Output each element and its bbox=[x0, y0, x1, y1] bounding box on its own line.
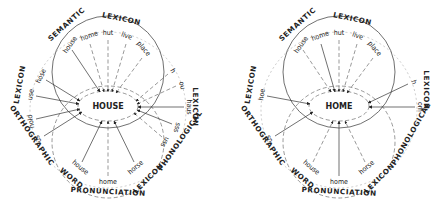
word-label: h bbox=[409, 79, 418, 85]
arrow-orthographic bbox=[36, 96, 79, 104]
word-label: house bbox=[293, 35, 311, 55]
orthographic-lexicon-title: ORTHOGRAPHIC bbox=[239, 104, 288, 168]
arrow-semantic bbox=[90, 44, 104, 92]
center-word: HOUSE bbox=[92, 102, 123, 111]
word-label: use bbox=[26, 88, 36, 100]
arrow-phonological bbox=[134, 113, 162, 137]
orthographic-lexicon-title: ORTHOGRAPHIC bbox=[8, 104, 57, 168]
word-label: home bbox=[330, 178, 348, 186]
semantic-lexicon-title: LEXICON bbox=[101, 10, 141, 27]
phonological-lexicon-title: PHONOLOGICAL bbox=[389, 101, 432, 167]
arrow-semantic bbox=[116, 58, 142, 93]
word-label: home bbox=[99, 178, 117, 186]
word-label: horse bbox=[126, 159, 145, 177]
arrow-orthographic bbox=[275, 112, 313, 136]
word-label: hose bbox=[34, 68, 48, 85]
arrow-orthographic bbox=[46, 80, 80, 101]
center-word: HOME bbox=[326, 102, 353, 111]
arrow-semantic bbox=[321, 44, 335, 92]
arrow-semantic bbox=[347, 58, 373, 93]
arrow-semantic bbox=[343, 44, 357, 92]
word-label: horse bbox=[357, 159, 376, 177]
diagram-house: HOUSE house home hut live place hose use… bbox=[8, 5, 204, 198]
word-label: hut bbox=[103, 29, 114, 37]
word-label: h bbox=[168, 67, 177, 74]
arrow-phonological bbox=[368, 84, 408, 103]
arrow-semantic bbox=[303, 50, 331, 92]
orthographic-lexicon-title: LEXICON bbox=[243, 64, 259, 104]
arrow-phonological bbox=[137, 110, 172, 124]
orthographic-lexicon-title: LEXICON bbox=[12, 64, 28, 104]
word-label: hut bbox=[334, 29, 345, 37]
lexicon-diagrams: HOUSE house home hut live place hose use… bbox=[0, 0, 443, 214]
semantic-lexicon-title: LEXICON bbox=[332, 10, 372, 27]
arrow-pronunciation bbox=[82, 121, 102, 162]
word-label: place bbox=[366, 40, 383, 58]
word-label: ou bbox=[177, 81, 187, 91]
word-label: hoe bbox=[257, 88, 267, 101]
word-label: uss bbox=[159, 135, 171, 148]
word-label: place bbox=[135, 40, 152, 58]
diagram-home: HOME house home hut live place hoe us h … bbox=[239, 5, 433, 198]
word-label: live bbox=[351, 30, 364, 41]
word-label: live bbox=[120, 30, 133, 41]
arrow-semantic bbox=[72, 50, 100, 92]
word-label: home bbox=[80, 29, 100, 43]
word-label: home bbox=[311, 29, 331, 43]
word-label: house bbox=[62, 35, 80, 55]
arrow-semantic bbox=[112, 44, 126, 92]
arrow-orthographic bbox=[267, 96, 310, 104]
arrow-pronunciation bbox=[114, 121, 134, 162]
